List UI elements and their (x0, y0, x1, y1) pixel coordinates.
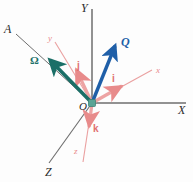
diagram-canvas (0, 0, 193, 182)
axis-label-y-body: y (48, 34, 52, 43)
axis-line-Z (49, 103, 92, 163)
axis-label-Y: Y (81, 2, 88, 14)
vector-label-omega: Ω (30, 55, 39, 66)
reference-label-A: A (4, 23, 11, 35)
origin-marker (89, 100, 96, 107)
vector-label-Q: Q (121, 36, 130, 48)
unit-vector-label-i: i (112, 74, 115, 84)
body-axes-group (55, 42, 152, 162)
axis-label-X: X (178, 104, 185, 116)
global-axes-group (49, 9, 186, 163)
unit-vector-j (76, 69, 92, 103)
axis-label-x-body: x (156, 66, 160, 75)
axis-label-z-body: z (74, 147, 78, 156)
axis-label-Z: Z (45, 166, 52, 178)
unit-vector-label-j: j (77, 61, 80, 71)
vector-diagram-figure: Y X Z A x y z i j k Ω Q O (0, 0, 193, 182)
unit-vector-label-k: k (93, 124, 99, 134)
unit-vectors-group (76, 69, 122, 127)
vector-omega (50, 60, 92, 103)
origin-label: O (79, 101, 87, 112)
